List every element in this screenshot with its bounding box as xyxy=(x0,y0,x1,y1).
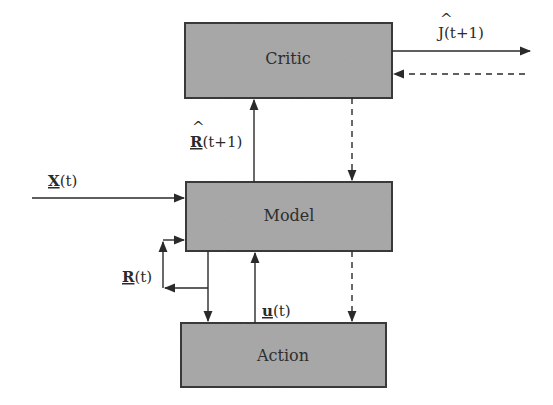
diagram-svg: Critic Model Action J(t+1) ^ R(t+1) ^ xyxy=(0,0,553,405)
model-block: Model xyxy=(186,182,392,251)
r-label: R(t) xyxy=(122,268,152,286)
j-hat-label: J(t+1) ^ xyxy=(436,10,484,42)
r-hat-label: R(t+1) ^ xyxy=(190,118,242,151)
svg-text:^: ^ xyxy=(192,118,205,136)
x-label: X(t) xyxy=(48,172,77,190)
critic-block: Critic xyxy=(185,23,392,98)
model-label: Model xyxy=(264,206,315,225)
action-label: Action xyxy=(256,346,309,365)
diagram-canvas: Critic Model Action J(t+1) ^ R(t+1) ^ xyxy=(0,0,553,405)
r-feedback-loop xyxy=(163,240,208,321)
u-label: u(t) xyxy=(262,302,291,320)
action-block: Action xyxy=(181,323,386,387)
critic-label: Critic xyxy=(265,49,311,68)
svg-text:^: ^ xyxy=(440,10,453,28)
